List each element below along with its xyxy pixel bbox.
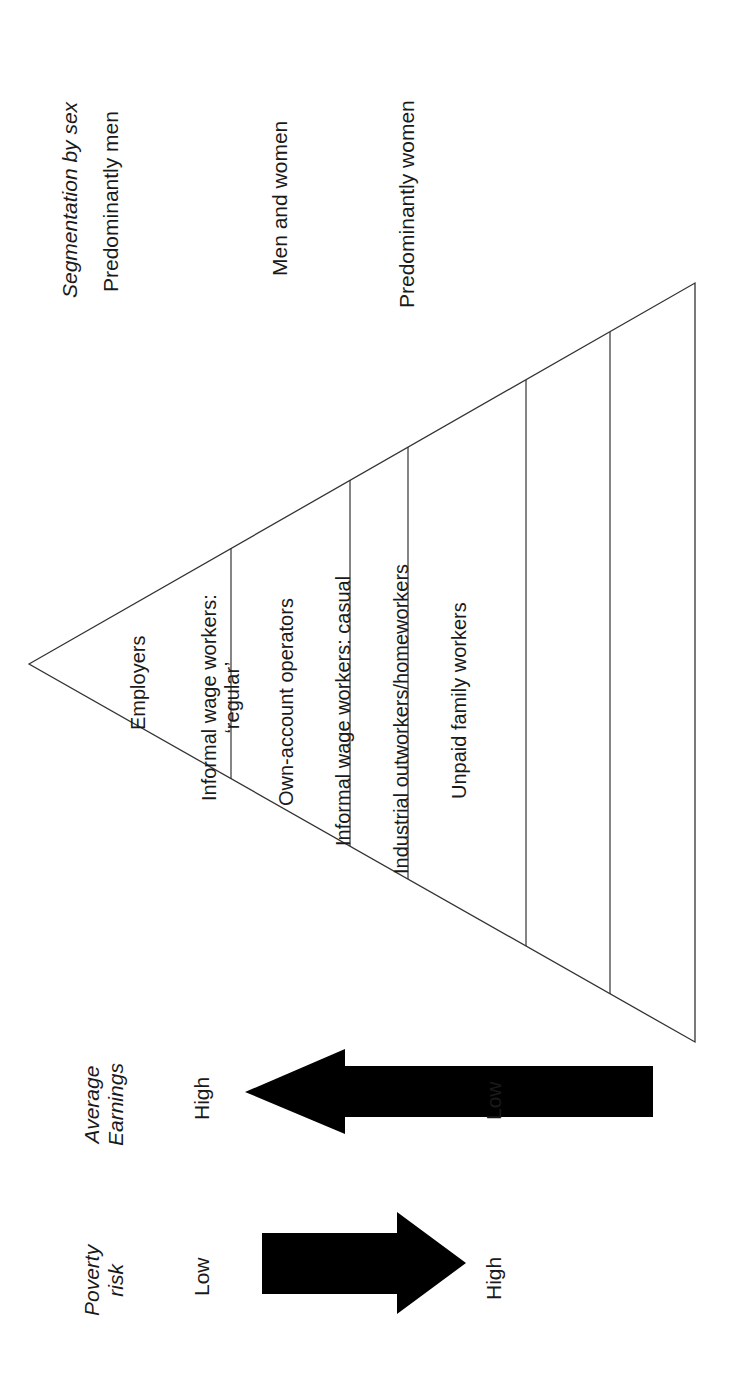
- sex-label-mixed: Men and women: [268, 121, 292, 276]
- tier-label: Informal wage workers:: [198, 594, 221, 801]
- average-earnings-title-line2: Earnings: [104, 1063, 128, 1146]
- sex-label-men: Predominantly men: [99, 111, 123, 292]
- average-earnings-title-line1: Average: [80, 1063, 104, 1146]
- average-earnings-high: High: [190, 1077, 214, 1120]
- average-earnings-title: Average Earnings: [80, 1063, 128, 1146]
- poverty-risk-high: High: [482, 1257, 506, 1300]
- tier-label: Informal wage workers: casual: [332, 576, 354, 846]
- tier-label: Employers: [127, 636, 149, 730]
- tier-label: Industrial outworkers/homeworkers: [390, 564, 412, 874]
- poverty-risk-arrow: [262, 1212, 466, 1314]
- tier-label: Own-account operators: [275, 598, 297, 806]
- poverty-risk-title-line2: risk: [104, 1245, 128, 1316]
- tier-label-line2: ‘regular’: [221, 594, 244, 801]
- tier-unpaid-family: Unpaid family workers: [448, 602, 471, 799]
- average-earnings-low: Low: [482, 1081, 506, 1120]
- tier-regular-wage-label: Informal wage workers: ‘regular’: [198, 594, 244, 801]
- tier-employers: Employers: [127, 636, 150, 730]
- poverty-risk-title-line1: Poverty: [80, 1245, 104, 1316]
- tier-label: Unpaid family workers: [448, 602, 470, 799]
- sex-label-women: Predominantly women: [395, 100, 419, 308]
- tier-outworkers: Industrial outworkers/homeworkers: [390, 564, 413, 874]
- poverty-risk-title: Poverty risk: [80, 1245, 128, 1316]
- segmentation-header: Segmentation by sex: [58, 102, 82, 298]
- poverty-risk-low: Low: [190, 1257, 214, 1296]
- average-earnings-arrow: [245, 1049, 653, 1134]
- tier-own-account: Own-account operators: [275, 598, 298, 806]
- tier-casual-wage: Informal wage workers: casual: [332, 576, 355, 846]
